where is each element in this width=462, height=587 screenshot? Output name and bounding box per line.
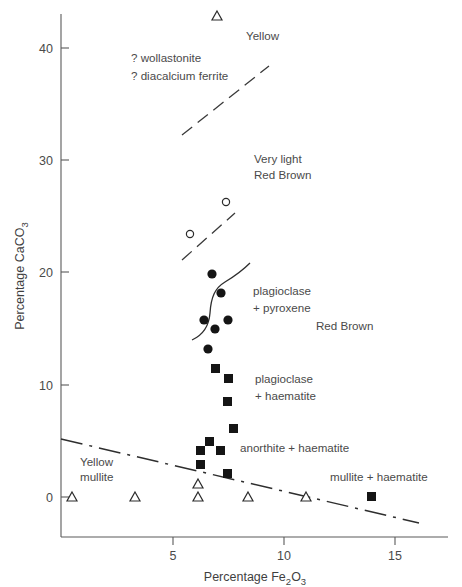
marker-filled-square xyxy=(211,364,220,373)
annotation-yellow-mullite-line1: Yellow xyxy=(80,455,114,468)
marker-filled-circle xyxy=(210,324,219,333)
marker-filled-square xyxy=(216,446,225,455)
x-axis-title-prefix: Percentage Fe xyxy=(204,570,286,584)
series-open-triangle xyxy=(67,11,311,501)
boundary-lines-group xyxy=(61,66,419,523)
annotation-diacalcium-ferrite-query: ? diacalcium ferrite xyxy=(131,69,228,82)
annotation-plagioclase-pyroxene-line1: plagioclase xyxy=(253,284,311,297)
y-tick-label-30: 30 xyxy=(39,154,53,168)
annotation-very-light-red-brown-line2: Red Brown xyxy=(254,168,311,181)
marker-filled-circle xyxy=(216,288,225,297)
scatter-plot-canvas: 40 30 20 10 0 5 10 15 Percentage Fe2O3 P… xyxy=(0,0,462,587)
marker-filled-circle xyxy=(207,269,216,278)
y-axis-title-sub: 3 xyxy=(19,222,30,227)
annotation-very-light-red-brown-line1: Very light xyxy=(254,152,302,165)
marker-open-triangle xyxy=(243,492,253,501)
annotation-anorthite-haematite: anorthite + haematite xyxy=(240,441,349,454)
marker-open-triangle xyxy=(212,11,222,20)
marker-filled-circle xyxy=(203,344,212,353)
marker-open-triangle xyxy=(193,479,203,488)
marker-filled-square xyxy=(224,374,233,383)
annotation-plagioclase-pyroxene-line2: + pyroxene xyxy=(253,301,311,314)
marker-filled-square xyxy=(223,469,232,478)
marker-filled-square xyxy=(196,460,205,469)
marker-filled-square xyxy=(205,437,214,446)
annotations-group: Yellow ? wollastonite ? diacalcium ferri… xyxy=(80,29,428,483)
x-tick-label-15: 15 xyxy=(388,549,402,563)
annotation-plagioclase-haematite-line2: + haematite xyxy=(255,389,316,402)
marker-open-triangle xyxy=(130,492,140,501)
chart-figure: 40 30 20 10 0 5 10 15 Percentage Fe2O3 P… xyxy=(0,0,462,587)
annotation-red-brown: Red Brown xyxy=(316,319,373,332)
y-axis-title-prefix: Percentage CaCO xyxy=(13,227,27,329)
annotation-plagioclase-haematite-line1: plagioclase xyxy=(255,372,313,385)
marker-filled-square xyxy=(223,397,232,406)
marker-open-triangle xyxy=(301,492,311,501)
series-open-circle xyxy=(186,198,229,237)
annotation-yellow: Yellow xyxy=(246,29,280,42)
x-tick-label-10: 10 xyxy=(277,549,291,563)
y-axis-title: Percentage CaCO3 xyxy=(13,222,30,329)
marker-open-triangle xyxy=(193,492,203,501)
annotation-mullite-haematite: mullite + haematite xyxy=(330,470,428,483)
marker-open-circle xyxy=(222,198,229,205)
marker-filled-square xyxy=(367,492,376,501)
y-tick-label-40: 40 xyxy=(39,42,53,56)
x-axis-title-sub2: 3 xyxy=(301,576,306,587)
x-axis-ticks: 5 10 15 xyxy=(170,537,402,563)
axes-group xyxy=(61,14,448,537)
x-axis-title: Percentage Fe2O3 xyxy=(204,570,306,587)
marker-open-circle xyxy=(186,230,193,237)
x-tick-label-5: 5 xyxy=(170,549,177,563)
series-filled-circle xyxy=(199,269,232,353)
y-axis-ticks: 40 30 20 10 0 xyxy=(39,42,69,505)
y-tick-label-0: 0 xyxy=(46,491,53,505)
marker-filled-square xyxy=(196,446,205,455)
y-tick-label-10: 10 xyxy=(39,379,53,393)
x-axis-title-mid: O xyxy=(291,570,301,584)
annotation-wollastonite-query: ? wollastonite xyxy=(131,51,201,64)
y-tick-label-20: 20 xyxy=(39,266,53,280)
annotation-yellow-mullite-line2: mullite xyxy=(80,470,114,483)
pyroxene-s-curve xyxy=(192,263,250,340)
marker-filled-circle xyxy=(199,315,208,324)
marker-filled-square xyxy=(229,424,238,433)
marker-filled-circle xyxy=(223,315,232,324)
